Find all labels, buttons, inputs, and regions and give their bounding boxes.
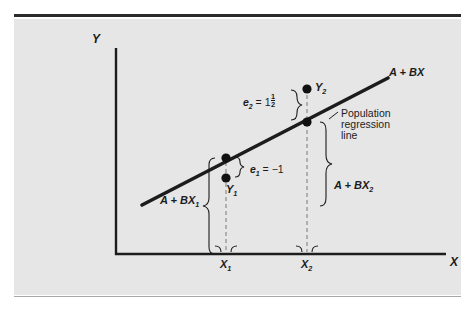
residual-1-label: e1 = −1	[250, 164, 284, 177]
residual-1-value: = −1	[260, 163, 284, 175]
observed-point-y2	[302, 84, 311, 93]
fitted-1-expression: A + BX	[160, 194, 195, 206]
fitted-2-expression: A + BX	[334, 179, 369, 191]
observation-1-label: Y1	[226, 184, 237, 198]
x1-subscript: 1	[227, 264, 231, 273]
residual-2-equals: = 1	[253, 96, 271, 108]
x-axis-label: X	[450, 256, 458, 269]
bracket-x2-axis-right	[312, 246, 318, 252]
fitted-value-2-label: A + BX2	[334, 180, 373, 194]
population-caption-line-3: line	[341, 129, 357, 141]
observed-point-y1	[221, 173, 230, 182]
figure-root: Y X A + BX Population regression line e2…	[0, 0, 476, 311]
residual-2-fraction-denominator: 2	[271, 100, 275, 108]
brace-e2	[291, 90, 302, 120]
bracket-x1-axis	[215, 246, 221, 252]
fitted-1-subscript: 1	[195, 200, 199, 209]
y-axis-label: Y	[92, 33, 100, 46]
population-line-leader	[329, 112, 338, 119]
fitted-value-1-label: A + BX1	[160, 195, 199, 209]
residual-2-label: e2 = 112	[243, 93, 275, 110]
residual-2-fraction-numerator: 1	[271, 93, 275, 100]
population-regression-line-caption: Population regression line	[341, 108, 391, 141]
fitted-point-x1	[221, 153, 230, 162]
x2-tick-label: X2	[301, 259, 312, 273]
regression-plot-svg	[0, 0, 476, 311]
observation-2-label: Y2	[315, 82, 326, 96]
residual-2-fraction: 12	[271, 93, 275, 109]
bracket-x2-axis	[296, 246, 302, 252]
bracket-x1-axis-right	[231, 246, 237, 252]
brace-fitted-2	[320, 122, 332, 206]
observation-1-subscript: 1	[233, 189, 237, 198]
x1-tick-label: X1	[220, 259, 231, 273]
observation-2-subscript: 2	[322, 87, 326, 96]
fitted-2-subscript: 2	[369, 185, 373, 194]
regression-line-label: A + BX	[389, 67, 424, 79]
brace-e1	[235, 157, 244, 177]
fitted-point-x2	[302, 117, 311, 126]
x2-subscript: 2	[308, 264, 312, 273]
